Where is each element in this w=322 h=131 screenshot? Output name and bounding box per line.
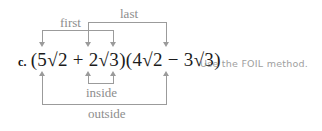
outside-bracket-right-leg bbox=[166, 76, 167, 105]
arrow-down-term-3 bbox=[110, 42, 116, 47]
label-inside: inside bbox=[83, 86, 120, 100]
first-bracket-left-leg bbox=[42, 30, 43, 42]
label-first: first bbox=[57, 16, 84, 30]
foil-diagram-figure: last first c. (5√2 + 2√3)(4√2 − 3√3) ins… bbox=[0, 0, 322, 131]
outside-bracket-left-leg bbox=[42, 76, 43, 105]
arrow-down-term-1 bbox=[39, 42, 45, 47]
first-bracket-right-leg bbox=[113, 30, 114, 42]
first-bracket-rail-extension bbox=[88, 30, 114, 31]
problem-expression: (5√2 + 2√3)(4√2 − 3√3) bbox=[31, 49, 221, 71]
first-bracket-rail bbox=[42, 30, 89, 31]
instruction-note: Use the FOIL method. bbox=[200, 58, 308, 69]
arrow-down-term-2 bbox=[85, 42, 91, 47]
outside-bracket-rail bbox=[42, 104, 167, 105]
label-last: last bbox=[117, 7, 141, 21]
arrow-down-term-4 bbox=[163, 42, 169, 47]
inside-bracket-rail bbox=[88, 83, 114, 84]
last-bracket-right-leg bbox=[166, 22, 167, 42]
problem-label: c. bbox=[18, 55, 27, 70]
label-outside: outside bbox=[85, 107, 129, 121]
last-bracket-left-leg bbox=[88, 22, 89, 42]
last-bracket-rail bbox=[88, 22, 167, 23]
problem-expression-row: c. (5√2 + 2√3)(4√2 − 3√3) bbox=[18, 49, 221, 75]
